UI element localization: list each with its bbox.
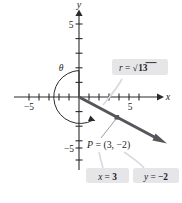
- y-callout-text: y = −2: [143, 172, 168, 182]
- x-callout-value: 3: [112, 172, 117, 182]
- polar-point-figure: x y −5 5 5 −5 θ P = (3, −2) r = √13 x = …: [0, 0, 182, 203]
- r-callout[interactable]: r = √13: [112, 59, 168, 75]
- x-tick-label-5: 5: [128, 102, 133, 112]
- point-label-p: P = (3, −2): [86, 139, 130, 151]
- theta-symbol: θ: [59, 63, 64, 73]
- x-callout-text: x = 3: [97, 172, 117, 182]
- point-label-p-letter: P: [86, 139, 93, 150]
- r-callout-radicand: 13: [138, 63, 148, 73]
- y-tick-label-5: 5: [69, 20, 74, 30]
- y-callout[interactable]: y = −2: [133, 168, 179, 183]
- x-callout[interactable]: x = 3: [86, 168, 129, 183]
- x-tick-label-neg5: −5: [24, 102, 34, 112]
- y-callout-value: −2: [158, 172, 168, 182]
- y-tick-label-neg5: −5: [64, 144, 74, 154]
- point-marker-p: [115, 115, 120, 120]
- point-label-p-coords: = (3, −2): [93, 139, 130, 151]
- x-callout-equals: =: [102, 172, 112, 182]
- r-callout-equals: =: [123, 63, 133, 73]
- x-axis-label: x: [165, 91, 171, 102]
- r-callout-text: r = √13: [119, 63, 148, 73]
- y-callout-equals: =: [148, 172, 158, 182]
- y-axis-label: y: [76, 0, 82, 10]
- leader-lines: [99, 79, 144, 168]
